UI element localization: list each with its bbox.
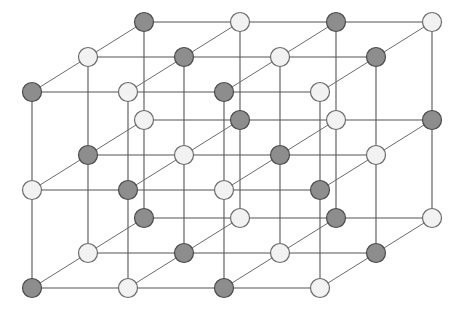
light-atom bbox=[215, 181, 234, 200]
dark-atom bbox=[215, 83, 234, 102]
light-atom bbox=[423, 13, 442, 32]
dark-atom bbox=[367, 48, 386, 67]
light-atom bbox=[79, 48, 98, 67]
dark-atom bbox=[215, 279, 234, 298]
dark-atom bbox=[175, 48, 194, 67]
dark-atom bbox=[271, 146, 290, 165]
crystal-lattice-figure bbox=[0, 0, 462, 315]
dark-atom bbox=[423, 111, 442, 130]
dark-atom bbox=[23, 279, 42, 298]
light-atom bbox=[311, 279, 330, 298]
dark-atom bbox=[327, 209, 346, 228]
light-atom bbox=[311, 83, 330, 102]
light-atom bbox=[271, 244, 290, 263]
light-atom bbox=[175, 146, 194, 165]
light-atom bbox=[327, 111, 346, 130]
light-atom bbox=[119, 279, 138, 298]
light-atom bbox=[231, 209, 250, 228]
dark-atom bbox=[135, 209, 154, 228]
light-atom bbox=[23, 181, 42, 200]
light-atom bbox=[271, 48, 290, 67]
dark-atom bbox=[311, 181, 330, 200]
light-atom bbox=[367, 146, 386, 165]
light-atom bbox=[135, 111, 154, 130]
dark-atom bbox=[175, 244, 194, 263]
dark-atom bbox=[367, 244, 386, 263]
dark-atom bbox=[119, 181, 138, 200]
light-atom bbox=[231, 13, 250, 32]
light-atom bbox=[119, 83, 138, 102]
dark-atom bbox=[135, 13, 154, 32]
light-atom bbox=[79, 244, 98, 263]
dark-atom bbox=[23, 83, 42, 102]
dark-atom bbox=[327, 13, 346, 32]
light-atom bbox=[423, 209, 442, 228]
dark-atom bbox=[79, 146, 98, 165]
dark-atom bbox=[231, 111, 250, 130]
lattice-diagram bbox=[0, 0, 462, 315]
